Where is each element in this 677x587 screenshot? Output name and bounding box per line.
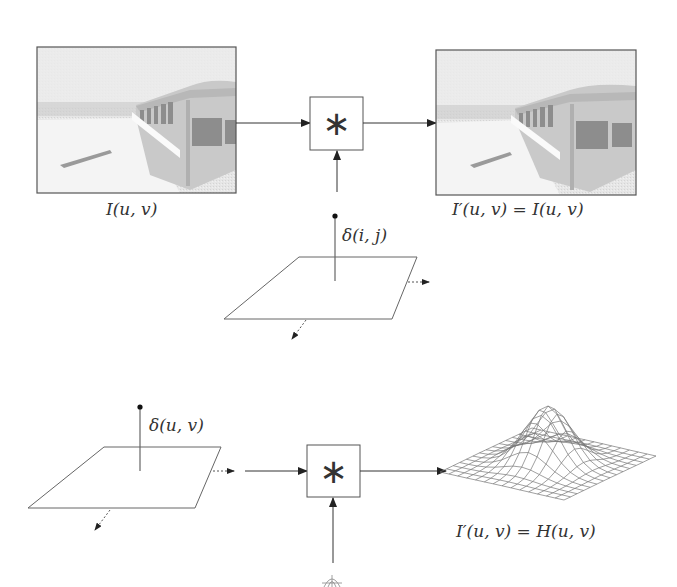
- label-output-image: I′(u, v) = I(u, v): [452, 199, 584, 219]
- label-kernel-top: δ(i, j): [342, 225, 387, 245]
- convolution-symbol-bottom: ∗: [307, 445, 360, 497]
- label-output-surface: I′(u, v) = H(u, v): [456, 521, 596, 541]
- gaussian-surface: [440, 406, 656, 500]
- kernel-surface-partial: [322, 575, 342, 587]
- impulse-plane-top: [224, 213, 429, 339]
- label-input-image: I(u, v): [106, 199, 157, 219]
- input-image: [37, 47, 236, 193]
- convolution-symbol-top: ∗: [310, 97, 363, 150]
- diagram-canvas: [0, 0, 677, 587]
- label-impulse-bottom: δ(u, v): [149, 415, 204, 435]
- output-image: [436, 50, 636, 195]
